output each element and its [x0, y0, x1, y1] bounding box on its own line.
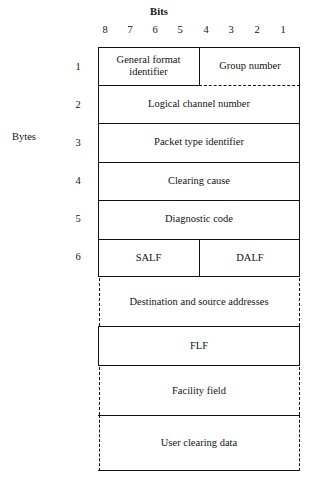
row6-field-divider	[199, 239, 200, 277]
field-destination-and-source-addresses-label: Destination and source addresses	[129, 296, 268, 308]
byte-number-3: 3	[70, 137, 86, 149]
packet-format-diagram: Bits 8 7 6 5 4 3 2 1 Bytes 1 2 3 4 5 6 G…	[0, 0, 318, 486]
destination-addresses-left-edge	[99, 278, 100, 326]
byte-number-2: 2	[70, 99, 86, 111]
facility-field-right-edge	[299, 367, 300, 415]
bit-number-5: 5	[172, 24, 188, 36]
field-facility-field-label: Facility field	[172, 385, 226, 397]
bits-axis-title: Bits	[0, 6, 318, 18]
byte-number-1: 1	[70, 61, 86, 73]
row-separator-2-3	[98, 123, 300, 124]
destination-addresses-right-edge	[299, 278, 300, 326]
facility-field-left-edge	[99, 367, 100, 415]
row-separator-1-2-dashed	[199, 85, 300, 86]
row1-field-divider	[199, 47, 200, 85]
byte-number-4: 4	[70, 175, 86, 187]
bit-number-8: 8	[97, 24, 113, 36]
bit-number-3: 3	[223, 24, 239, 36]
field-facility-field: Facility field	[98, 367, 300, 415]
bit-number-2: 2	[249, 24, 265, 36]
bit-number-4: 4	[198, 24, 214, 36]
user-clearing-data-right-edge	[299, 415, 300, 471]
byte-number-6: 6	[70, 251, 86, 263]
flf-box	[98, 326, 300, 366]
field-user-clearing-data: User clearing data	[98, 415, 300, 471]
field-destination-and-source-addresses: Destination and source addresses	[98, 278, 300, 326]
row-separator-4-5	[98, 200, 300, 201]
user-clearing-data-top-edge	[98, 415, 300, 416]
user-clearing-data-bottom-edge	[98, 470, 300, 471]
bit-number-6: 6	[147, 24, 163, 36]
bit-number-7: 7	[122, 24, 138, 36]
field-user-clearing-data-label: User clearing data	[161, 437, 237, 449]
bytes-axis-title: Bytes	[12, 131, 60, 143]
bit-number-1: 1	[275, 24, 291, 36]
row-separator-3-4	[98, 162, 300, 163]
user-clearing-data-left-edge	[99, 415, 100, 471]
byte-number-5: 5	[70, 213, 86, 225]
row-separator-1-2-solid	[98, 85, 200, 86]
